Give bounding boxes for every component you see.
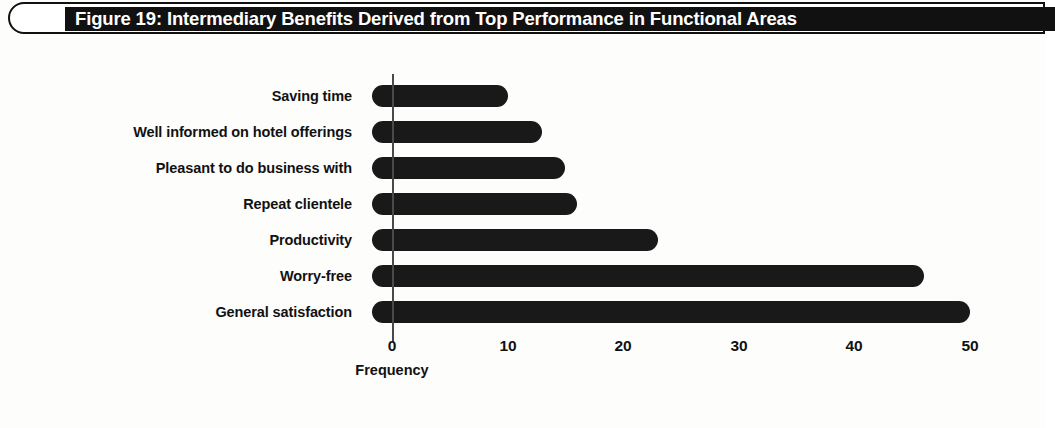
x-tick-50: 50: [961, 337, 978, 355]
x-tick-20: 20: [614, 337, 631, 355]
figure-title-capsule: Figure 19: Intermediary Benefits Derived…: [8, 2, 1045, 34]
x-axis-ticks: 0 10 20 30 40 50: [0, 337, 1045, 361]
x-tick-40: 40: [845, 337, 862, 355]
chart-plot-area: Saving time Well informed on hotel offer…: [0, 40, 1045, 428]
bar-worry-free: [372, 265, 924, 287]
zero-axis-line: [392, 74, 394, 342]
x-tick-0: 0: [388, 337, 397, 355]
bar-productivity: [372, 229, 658, 251]
bar-repeat-clientele: [372, 193, 577, 215]
figure-title: Figure 19: Intermediary Benefits Derived…: [75, 8, 797, 30]
bar-series: [0, 78, 1045, 330]
bar-well-informed: [372, 121, 542, 143]
x-axis-title: Frequency: [355, 362, 428, 378]
bar-pleasant-business: [372, 157, 565, 179]
x-tick-30: 30: [730, 337, 747, 355]
figure-title-bar: Figure 19: Intermediary Benefits Derived…: [65, 7, 1055, 31]
x-tick-10: 10: [499, 337, 516, 355]
bar-general-satisfaction: [372, 301, 970, 323]
